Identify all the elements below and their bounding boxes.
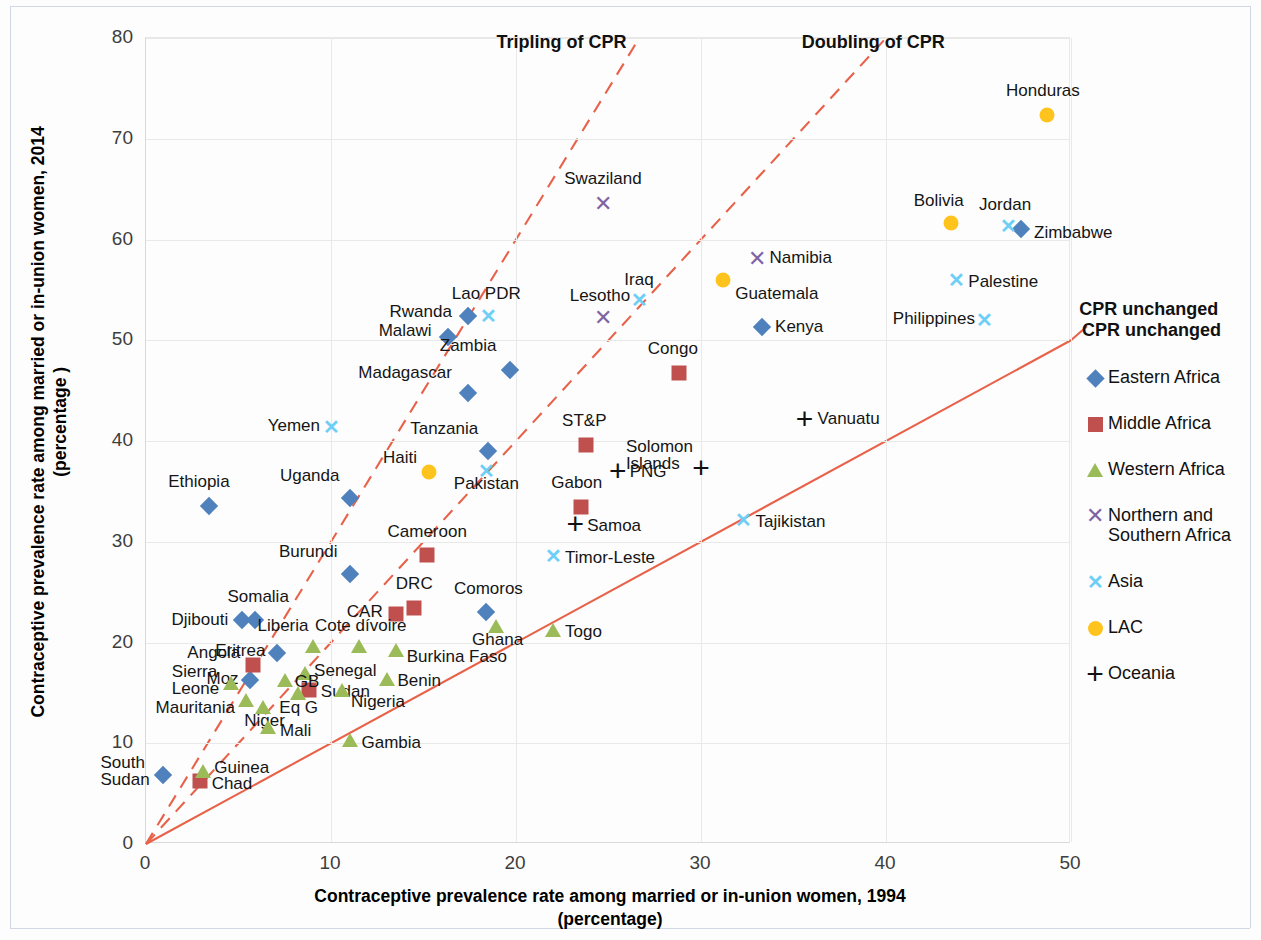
marker-circle[interactable] xyxy=(716,272,731,287)
marker-plus[interactable]: + xyxy=(609,464,627,478)
x-tick-label: 20 xyxy=(485,852,545,874)
legend-marker xyxy=(1082,367,1108,389)
point-label: Mauritania xyxy=(156,699,235,717)
marker-x-asia[interactable]: ✕ xyxy=(545,549,562,563)
point-label: Burundi xyxy=(279,543,338,561)
legend-title: CPR unchanged xyxy=(1082,320,1257,341)
x-tick-label: 40 xyxy=(855,852,915,874)
point-label: Eq G xyxy=(279,699,318,717)
chart-annotation: Doubling of CPR xyxy=(802,32,945,53)
point-label: Liberia xyxy=(257,617,308,635)
legend-item-middle-africa[interactable]: Middle Africa xyxy=(1082,413,1257,459)
marker-triangle[interactable] xyxy=(223,676,239,690)
x-tick-label: 0 xyxy=(115,852,175,874)
gridline-vertical xyxy=(331,38,332,842)
marker-x-asia[interactable]: ✕ xyxy=(1000,219,1017,233)
y-axis-title-line1: Contraceptive prevalence rate among marr… xyxy=(28,126,48,717)
gridline-horizontal xyxy=(146,441,1069,442)
point-label: SouthSudan xyxy=(100,754,149,788)
marker-x-asia[interactable]: ✕ xyxy=(480,309,497,323)
marker-circle[interactable] xyxy=(1039,107,1054,122)
marker-x-asia[interactable]: ✕ xyxy=(948,273,965,287)
legend-label-line1: Northern and xyxy=(1108,505,1213,525)
marker-triangle[interactable] xyxy=(238,693,254,707)
plot-area: EthiopiaRwandaMalawiMadagascarZambiaTanz… xyxy=(145,37,1070,843)
marker-triangle[interactable] xyxy=(195,764,211,778)
point-label: Lesotho xyxy=(570,287,631,305)
y-tick-label: 80 xyxy=(73,26,133,48)
legend-label: LAC xyxy=(1108,617,1143,637)
x-axis-title-line1: Contraceptive prevalence rate among marr… xyxy=(314,886,905,906)
chart-annotation: Tripling of CPR xyxy=(497,32,627,53)
marker-square[interactable] xyxy=(579,438,594,453)
marker-x-asia[interactable]: ✕ xyxy=(631,293,648,307)
marker-triangle[interactable] xyxy=(545,623,561,637)
legend-marker xyxy=(1082,459,1108,481)
marker-x-asia: ✕ xyxy=(1087,575,1104,589)
y-axis-title-line2: (percentage ) xyxy=(50,367,70,477)
legend-label: Middle Africa xyxy=(1108,413,1211,433)
legend-marker: ✕ xyxy=(1082,505,1108,527)
x-tick-label: 30 xyxy=(670,852,730,874)
marker-triangle[interactable] xyxy=(260,720,276,734)
page-border-top xyxy=(10,6,1250,7)
legend-rows: Eastern AfricaMiddle AfricaWestern Afric… xyxy=(1082,367,1257,709)
marker-square[interactable] xyxy=(246,657,261,672)
marker-x[interactable]: ✕ xyxy=(594,311,612,325)
marker-triangle[interactable] xyxy=(342,733,358,747)
marker-x[interactable]: ✕ xyxy=(748,252,766,266)
y-tick-label: 60 xyxy=(73,228,133,250)
marker-triangle xyxy=(1087,463,1103,477)
y-tick-label: 40 xyxy=(73,429,133,451)
point-label: ST&P xyxy=(562,412,606,430)
marker-x-asia[interactable]: ✕ xyxy=(735,513,752,527)
marker-x: ✕ xyxy=(1086,509,1104,523)
marker-x[interactable]: ✕ xyxy=(594,197,612,211)
marker-plus[interactable]: + xyxy=(566,517,584,531)
marker-triangle[interactable] xyxy=(388,643,404,657)
marker-circle[interactable] xyxy=(943,216,958,231)
marker-triangle[interactable] xyxy=(334,683,350,697)
marker-plus[interactable]: + xyxy=(692,461,710,475)
point-label: Namibia xyxy=(770,249,832,267)
point-label: Djibouti xyxy=(171,611,228,629)
legend-item-eastern-africa[interactable]: Eastern Africa xyxy=(1082,367,1257,413)
point-label: Somalia xyxy=(227,588,288,606)
marker-triangle[interactable] xyxy=(305,639,321,653)
point-label: Senegal xyxy=(314,662,376,680)
point-label: SierraLeone xyxy=(172,663,219,697)
point-label: Vanuatu xyxy=(818,410,880,428)
marker-triangle[interactable] xyxy=(379,672,395,686)
legend-item-lac[interactable]: LAC xyxy=(1082,617,1257,663)
marker-square[interactable] xyxy=(671,366,686,381)
point-label: Gabon xyxy=(551,474,602,492)
marker-triangle[interactable] xyxy=(351,639,367,653)
marker-plus[interactable]: + xyxy=(796,412,814,426)
marker-square[interactable] xyxy=(420,547,435,562)
legend-item-northern-and-southern-africa[interactable]: ✕Northern andSouthern Africa xyxy=(1082,505,1257,571)
chart-annotation: CPR unchanged xyxy=(1079,299,1218,320)
point-label: Honduras xyxy=(1006,82,1080,100)
point-label-line2: Leone xyxy=(172,679,219,698)
point-label: Pakistan xyxy=(454,475,519,493)
point-label: Nigeria xyxy=(351,693,405,711)
marker-circle[interactable] xyxy=(422,465,437,480)
marker-x-asia[interactable]: ✕ xyxy=(323,420,340,434)
y-tick-label: 0 xyxy=(73,832,133,854)
legend-item-asia[interactable]: ✕Asia xyxy=(1082,571,1257,617)
gridline-horizontal xyxy=(146,340,1069,341)
gridline-horizontal xyxy=(146,139,1069,140)
marker-x-asia[interactable]: ✕ xyxy=(976,313,993,327)
point-label: Congo xyxy=(648,340,698,358)
legend-item-oceania[interactable]: +Oceania xyxy=(1082,663,1257,709)
point-label: Angola xyxy=(187,644,240,662)
point-label: Mali xyxy=(280,722,311,740)
point-label: Tajikistan xyxy=(756,513,826,531)
point-label: Haiti xyxy=(383,449,417,467)
legend-item-western-africa[interactable]: Western Africa xyxy=(1082,459,1257,505)
legend-marker xyxy=(1082,617,1108,639)
marker-square[interactable] xyxy=(407,601,422,616)
point-label: Burkina Faso xyxy=(407,648,507,666)
gridline-vertical xyxy=(1071,38,1072,842)
marker-triangle[interactable] xyxy=(277,673,293,687)
